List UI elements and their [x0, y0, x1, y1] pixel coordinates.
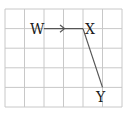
point-label-y: Y [95, 89, 106, 105]
point-label-w: W [30, 21, 45, 37]
grid-diagram: W X Y [0, 0, 127, 114]
segment-x-y [83, 29, 103, 88]
point-label-x: X [85, 21, 95, 37]
